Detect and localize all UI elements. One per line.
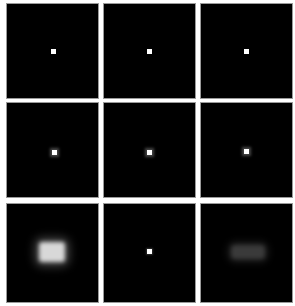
panel-r3-c3 [201,204,292,302]
panel-r2-c3 [201,103,292,197]
panel-r1-c2 [104,4,195,98]
point-source [147,49,152,54]
panel-r3-c1 [7,204,98,302]
image-grid [0,0,295,306]
panel-r1-c3 [201,4,292,98]
point-source [244,49,249,54]
blurred-point [147,150,152,155]
dim-blob [231,245,265,259]
panel-r2-c2 [104,103,195,197]
bright-blob [39,242,65,262]
point-source [51,49,56,54]
panel-r1-c1 [7,4,98,98]
blurred-point [52,150,57,155]
point-source [147,249,152,254]
panel-r3-c2 [104,204,195,302]
blurred-point [244,149,249,154]
panel-r2-c1 [7,103,98,197]
